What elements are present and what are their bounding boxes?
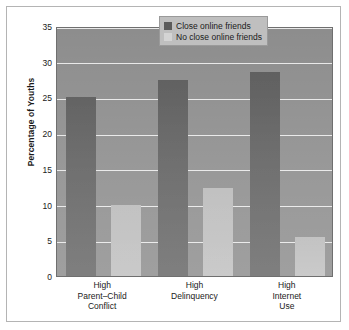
bar	[158, 80, 188, 276]
x-axis-category-labels: HighParent–ChildConflictHighDelinquencyH…	[56, 280, 333, 322]
y-axis-tick-label: 5	[26, 236, 52, 246]
bar	[111, 205, 141, 276]
x-axis-category-label: HighDelinquency	[148, 280, 240, 301]
y-axis-tick-label: 35	[26, 22, 52, 32]
gridline	[57, 206, 332, 207]
x-axis-category-label-line: Use	[241, 301, 333, 312]
y-axis-tick-label: 10	[26, 201, 52, 211]
legend-swatch-icon	[164, 22, 172, 30]
legend-item-label: Close online friends	[176, 21, 251, 31]
y-axis-tick-label: 20	[26, 129, 52, 139]
figure-frame: Percentage of Youths 35302520151050 High…	[6, 6, 341, 322]
gridline	[57, 99, 332, 100]
y-axis-tick-label: 30	[26, 58, 52, 68]
y-axis-tick-label: 15	[26, 165, 52, 175]
gridline	[57, 242, 332, 243]
x-axis-category-label-line: High	[56, 280, 148, 291]
x-axis-category-label-line: Internet	[241, 291, 333, 302]
plot-shading	[57, 28, 332, 276]
y-axis-tick-label: 25	[26, 93, 52, 103]
bar	[203, 188, 233, 276]
legend-swatch-icon	[164, 33, 172, 41]
gridline	[57, 63, 332, 64]
legend-item: No close online friends	[164, 31, 262, 42]
bar	[66, 97, 96, 276]
x-axis-category-label-line: Delinquency	[148, 291, 240, 302]
x-axis-category-label-line: High	[148, 280, 240, 291]
bar-chart: Percentage of Youths 35302520151050 High…	[7, 7, 342, 323]
chart-legend: Close online friendsNo close online frie…	[159, 16, 268, 46]
x-axis-category-label: HighInternetUse	[241, 280, 333, 312]
legend-item: Close online friends	[164, 20, 262, 31]
legend-item-label: No close online friends	[176, 32, 262, 42]
x-axis-category-label-line: High	[241, 280, 333, 291]
gridline	[57, 170, 332, 171]
x-axis-category-label-line: Conflict	[56, 301, 148, 312]
bar	[295, 237, 325, 276]
gridline	[57, 135, 332, 136]
bar	[250, 72, 280, 276]
x-axis-category-label: HighParent–ChildConflict	[56, 280, 148, 312]
plot-area	[56, 27, 333, 277]
x-axis-category-label-line: Parent–Child	[56, 291, 148, 302]
y-axis-tick-labels: 35302520151050	[24, 27, 52, 277]
y-axis-tick-label: 0	[26, 272, 52, 282]
